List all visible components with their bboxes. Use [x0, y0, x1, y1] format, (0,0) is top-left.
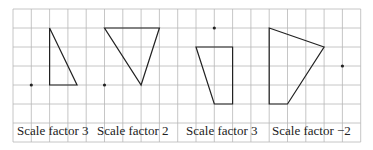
center-of-enlargement-2 [103, 83, 106, 86]
label-diagram-2: Scale factor 2 [97, 123, 168, 139]
shape-2 [105, 28, 160, 85]
shape-1 [50, 28, 77, 85]
center-of-enlargement-1 [30, 83, 33, 86]
label-diagram-1: Scale factor 3 [17, 123, 88, 139]
label-diagram-4: Scale factor −2 [272, 123, 351, 139]
center-of-enlargement-4 [341, 64, 344, 67]
label-diagram-3: Scale factor 3 [186, 123, 257, 139]
center-of-enlargement-3 [213, 26, 216, 29]
